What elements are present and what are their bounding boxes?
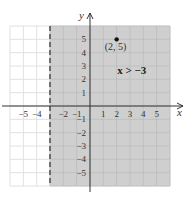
svg-text:2: 2 xyxy=(82,74,87,84)
svg-text:4: 4 xyxy=(141,109,146,119)
inequality-graph: −5−4−2−11234554321−1−2−3−4−5 x y (2, 5) … xyxy=(0,0,195,197)
inequality-label: x > −3 xyxy=(117,64,147,76)
svg-text:5: 5 xyxy=(82,34,87,44)
point-label: (2, 5) xyxy=(105,41,127,53)
y-axis-label: y xyxy=(78,9,84,21)
svg-text:−4: −4 xyxy=(32,109,42,119)
svg-text:3: 3 xyxy=(128,109,133,119)
svg-text:3: 3 xyxy=(82,61,87,71)
svg-text:5: 5 xyxy=(154,109,159,119)
svg-text:−2: −2 xyxy=(76,128,86,138)
x-axis-label: x xyxy=(176,106,182,118)
svg-text:−5: −5 xyxy=(76,168,86,178)
svg-text:−3: −3 xyxy=(76,141,86,151)
svg-text:4: 4 xyxy=(82,48,87,58)
svg-text:−4: −4 xyxy=(76,154,86,164)
svg-text:−5: −5 xyxy=(19,109,29,119)
svg-text:2: 2 xyxy=(114,109,119,119)
svg-text:−1: −1 xyxy=(76,114,86,124)
svg-text:1: 1 xyxy=(101,109,106,119)
svg-text:1: 1 xyxy=(82,88,87,98)
svg-text:−2: −2 xyxy=(59,109,69,119)
